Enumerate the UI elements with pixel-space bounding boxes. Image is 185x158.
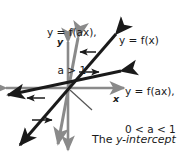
label-f-ax-a-greater-1-line1: y = f(ax), [47, 26, 97, 39]
label-f-ax-a-greater-1: y = f(ax), a > 1 [47, 1, 97, 101]
label-f-ax-a-between-0-1-line1: y = f(ax), [125, 85, 176, 98]
label-f-x: y = f(x) [119, 34, 159, 47]
caption-line-1: The y-intercept [92, 133, 180, 146]
y-axis-label: y [57, 36, 63, 47]
caption-line-1-emphasis: y-intercept [116, 133, 176, 146]
x-axis-label: x [113, 93, 119, 104]
caption-y-intercept: The y-intercept stays the same. [92, 107, 180, 158]
function-transformation-figure: y = f(ax), a > 1 y = f(x) y = f(ax), 0 <… [0, 0, 185, 158]
label-f-ax-a-greater-1-line2: a > 1 [47, 64, 97, 77]
caption-line-1-prefix: The [92, 133, 116, 146]
